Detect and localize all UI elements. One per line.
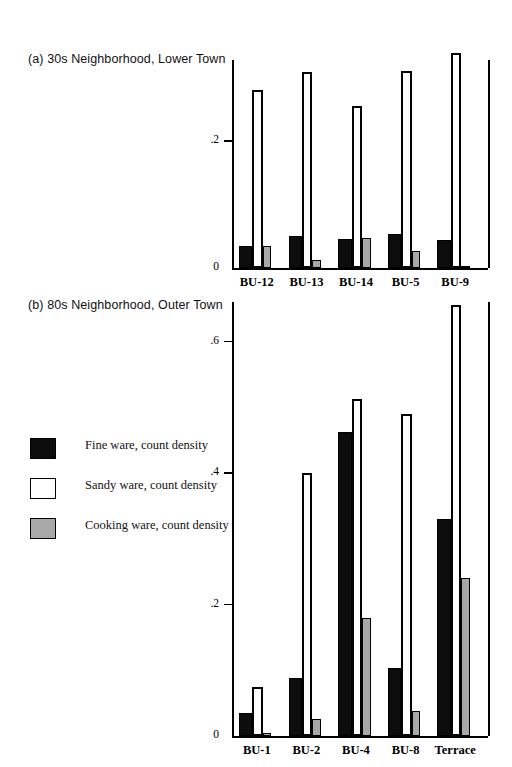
y-axis-tick-label: .4: [192, 465, 219, 477]
bar-fine: [388, 668, 401, 736]
bar-cooking: [263, 733, 272, 736]
bar-cooking: [312, 719, 321, 736]
bar-cooking: [312, 260, 321, 268]
legend-swatch-fine-icon: [30, 438, 56, 459]
bar-cooking: [412, 711, 421, 736]
bar-cooking: [362, 238, 371, 268]
panel-a: (a) 30s Neighborhood, Lower Town 0.2BU-1…: [0, 0, 512, 300]
bar-cooking: [362, 618, 371, 736]
panel-b: (b) 80s Neighborhood, Outer Town 0.2.4.6…: [0, 290, 512, 767]
x-axis-category-label: BU-8: [381, 743, 431, 758]
bar-sandy: [302, 72, 312, 268]
x-axis-category-label: BU-14: [331, 275, 381, 290]
y-axis-tick-label: 0: [192, 260, 219, 272]
bar-sandy: [252, 687, 262, 736]
panel-b-title: (b) 80s Neighborhood, Outer Town: [28, 298, 223, 312]
bar-cooking: [461, 578, 470, 736]
bar-sandy: [302, 473, 312, 736]
y-axis-tick-label: 0: [192, 728, 219, 740]
bar-sandy: [252, 90, 262, 268]
x-axis-category-label: BU-5: [381, 275, 431, 290]
x-axis-category-label: BU-12: [232, 275, 282, 290]
bar-sandy: [401, 414, 411, 736]
bar-fine: [388, 234, 401, 268]
legend-label-cooking: Cooking ware, count density: [85, 518, 229, 533]
x-axis-category-label: Terrace: [430, 743, 480, 758]
y-axis-tick-label: .2: [192, 597, 219, 609]
y-axis-tick: [224, 604, 233, 606]
bar-fine: [338, 432, 351, 736]
bar-sandy: [352, 399, 362, 736]
bar-cooking: [412, 251, 421, 268]
legend-label-sandy: Sandy ware, count density: [85, 478, 217, 493]
bar-fine: [239, 246, 252, 268]
bar-sandy: [352, 106, 362, 268]
bar-cooking: [461, 266, 470, 268]
bar-fine: [338, 239, 351, 268]
y-axis: [232, 302, 234, 736]
bar-cooking: [263, 246, 272, 268]
x-axis: [232, 736, 488, 738]
legend-swatch-sandy-icon: [30, 478, 56, 499]
bar-fine: [437, 519, 450, 736]
x-axis-category-label: BU-4: [331, 743, 381, 758]
bar-fine: [289, 678, 302, 736]
plot-right-border: [488, 60, 490, 268]
bar-sandy: [451, 305, 461, 736]
bar-fine: [289, 236, 302, 268]
y-axis-tick: [224, 472, 233, 474]
bar-sandy: [401, 71, 411, 268]
legend-label-fine: Fine ware, count density: [85, 438, 208, 453]
y-axis-tick-label: .2: [192, 133, 219, 145]
bar-sandy: [451, 53, 461, 268]
x-axis-category-label: BU-1: [232, 743, 282, 758]
x-axis: [232, 268, 488, 270]
legend-swatch-cooking-icon: [30, 518, 56, 539]
x-axis-category-label: BU-9: [430, 275, 480, 290]
panel-a-title: (a) 30s Neighborhood, Lower Town: [28, 52, 226, 66]
y-axis: [232, 60, 234, 268]
bar-fine: [239, 713, 252, 736]
x-axis-category-label: BU-13: [282, 275, 332, 290]
y-axis-tick: [224, 140, 233, 142]
plot-right-border: [488, 302, 490, 736]
y-axis-tick-label: .6: [192, 334, 219, 346]
bar-fine: [437, 240, 450, 268]
x-axis-category-label: BU-2: [282, 743, 332, 758]
y-axis-tick: [224, 341, 233, 343]
